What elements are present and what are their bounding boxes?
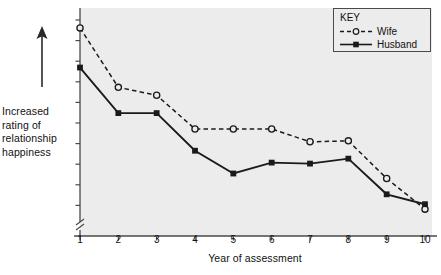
- data-point-husband-4: [192, 148, 198, 154]
- data-point-wife-1: [77, 25, 83, 31]
- legend-label-husband: Husband: [377, 38, 417, 51]
- data-point-wife-2: [115, 84, 121, 90]
- data-point-wife-3: [154, 92, 160, 98]
- legend-item-husband[interactable]: Husband: [339, 38, 429, 51]
- legend-marker-open-circle-icon: [339, 25, 373, 38]
- data-point-husband-3: [154, 110, 160, 116]
- x-tick-label-1: 1: [70, 234, 90, 245]
- data-point-husband-2: [115, 110, 121, 116]
- x-tick-label-3: 3: [147, 234, 167, 245]
- data-point-wife-9: [384, 175, 390, 181]
- legend-label-wife: Wife: [377, 25, 397, 38]
- legend: KEY Wife Husband: [333, 8, 431, 52]
- data-point-husband-1: [77, 65, 83, 71]
- x-tick-label-6: 6: [262, 234, 282, 245]
- data-point-wife-5: [230, 126, 236, 132]
- chart-figure: Increased rating of relationship happine…: [0, 0, 441, 275]
- data-point-wife-8: [345, 138, 351, 144]
- data-point-husband-5: [230, 171, 236, 177]
- x-tick-label-2: 2: [108, 234, 128, 245]
- x-tick-label-8: 8: [338, 234, 358, 245]
- legend-marker-filled-square-icon: [339, 38, 373, 51]
- x-axis-label: Year of assessment: [150, 252, 360, 264]
- data-point-husband-6: [269, 160, 275, 166]
- x-tick-label-4: 4: [185, 234, 205, 245]
- data-point-wife-4: [192, 126, 198, 132]
- x-tick-label-5: 5: [223, 234, 243, 245]
- data-point-husband-9: [384, 191, 390, 197]
- data-point-husband-7: [307, 161, 313, 167]
- data-point-wife-6: [269, 126, 275, 132]
- x-tick-label-10: 10: [415, 234, 435, 245]
- x-tick-label-9: 9: [377, 234, 397, 245]
- legend-title: KEY: [340, 12, 360, 23]
- data-point-husband-10: [422, 201, 428, 207]
- legend-item-wife[interactable]: Wife: [339, 25, 429, 38]
- data-point-husband-8: [345, 156, 351, 162]
- x-tick-label-7: 7: [300, 234, 320, 245]
- data-point-wife-7: [307, 139, 313, 145]
